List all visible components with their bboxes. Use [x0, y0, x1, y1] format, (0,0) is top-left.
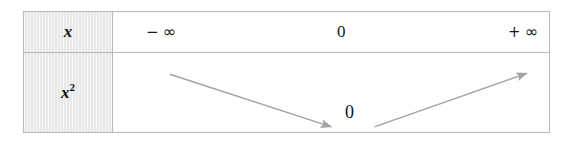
decreasing-arrow-icon — [170, 74, 332, 127]
exponent-two: 2 — [70, 81, 76, 93]
value-negative-infinity: − ∞ — [146, 22, 176, 42]
row-values-x-squared: 0 — [113, 53, 549, 132]
table-row-x-squared: x2 0 — [24, 53, 549, 132]
row-label-cell-x: x — [24, 12, 113, 52]
row-label-x-squared: x2 — [61, 83, 75, 103]
table-row-x: x − ∞ 0 + ∞ — [24, 12, 549, 53]
variation-table: x − ∞ 0 + ∞ x2 — [23, 11, 550, 133]
variation-arrows — [113, 53, 549, 132]
row-values-x: − ∞ 0 + ∞ — [113, 12, 549, 52]
value-positive-infinity: + ∞ — [508, 22, 538, 42]
minimum-value-zero: 0 — [345, 102, 354, 123]
row-label-x: x — [64, 22, 73, 42]
plus-sign-icon: + — [508, 23, 521, 41]
infinity-icon: ∞ — [525, 22, 538, 41]
value-zero: 0 — [337, 22, 346, 42]
infinity-icon: ∞ — [163, 22, 176, 41]
minus-sign-icon: − — [146, 23, 159, 41]
row-label-cell-x-squared: x2 — [24, 53, 113, 132]
increasing-arrow-icon — [374, 73, 527, 127]
